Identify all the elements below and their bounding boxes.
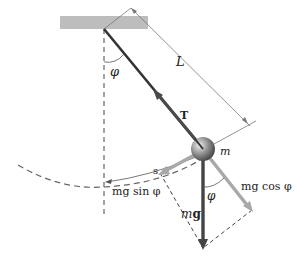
weight-g-label: g	[192, 207, 200, 221]
ceiling-support	[60, 16, 148, 29]
angle-arc-bottom	[203, 178, 224, 187]
weight-label: mg	[181, 208, 201, 220]
mass-label: m	[220, 146, 230, 157]
length-dimension-line	[131, 8, 250, 126]
length-dim-tick-bottom	[214, 121, 256, 144]
diagram-canvas	[0, 0, 297, 262]
tension-label: T	[180, 110, 188, 121]
component-dashed-2	[203, 210, 252, 248]
radial-component-label: mg cos φ	[241, 181, 292, 192]
weight-mass-label: m	[181, 207, 192, 221]
weight-arrowhead	[198, 239, 208, 250]
arc-length-label: s	[153, 166, 158, 176]
arc-arrowhead	[105, 179, 112, 184]
angle-arc-top	[104, 54, 124, 62]
tangential-component-label: mg sin φ	[112, 186, 160, 197]
angle-bottom-label: φ	[207, 190, 215, 202]
length-arrowhead-bottom	[242, 117, 248, 124]
angle-top-label: φ	[110, 65, 119, 78]
length-label: L	[176, 55, 185, 68]
